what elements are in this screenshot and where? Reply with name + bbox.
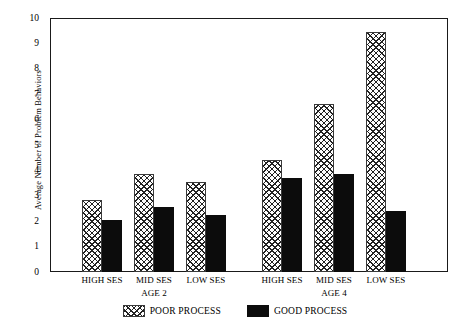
y-axis-tick-label: 1 [34,239,39,254]
chart-legend: POOR PROCESSGOOD PROCESS [0,305,470,317]
bar-chart: Average Number of Problem Behaviors 1098… [0,0,470,332]
x-axis-category-label: LOW SES [166,275,246,285]
legend-label: POOR PROCESS [150,306,221,316]
y-axis-tick-label: 2 [34,214,39,229]
y-axis-tick-label: 10 [30,11,40,26]
x-axis-category-label: LOW SES [346,275,426,285]
bar-good-process [154,207,174,272]
x-axis-group-label: AGE 2 [114,288,194,298]
bar-good-process [206,215,226,272]
y-axis-tick-label: 8 [34,61,39,76]
y-axis-tick-label: 3 [34,188,39,203]
bar-good-process [102,220,122,272]
legend-swatch [123,305,145,317]
y-axis-tick-label: 6 [34,112,39,127]
y-axis-tick-label: 4 [34,163,39,178]
bar-poor-process [82,200,102,272]
legend-item: GOOD PROCESS [247,305,347,317]
y-axis-tick-label: 7 [34,87,39,102]
x-axis-group-label: AGE 4 [294,288,374,298]
legend-swatch [247,305,269,317]
bar-good-process [282,178,302,272]
y-axis-tick-label: 0 [34,265,39,280]
bar-poor-process [134,174,154,272]
bar-poor-process [366,32,386,272]
bars-layer [50,18,448,272]
bar-poor-process [186,182,206,272]
legend-label: GOOD PROCESS [274,306,347,316]
y-axis-tick-label: 9 [34,36,39,51]
bar-good-process [334,174,354,272]
legend-item: POOR PROCESS [123,305,221,317]
bar-poor-process [262,160,282,272]
bar-good-process [386,211,406,272]
bar-poor-process [314,104,334,272]
y-axis-tick-label: 5 [34,138,39,153]
